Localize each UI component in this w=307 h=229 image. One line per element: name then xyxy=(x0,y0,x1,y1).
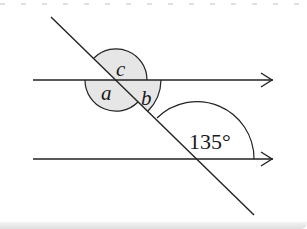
angle-a-label: a xyxy=(101,81,112,105)
angle-135-label: 135° xyxy=(189,129,231,154)
angle-c-label: c xyxy=(116,57,126,81)
transversal-line xyxy=(51,17,254,215)
parallel-lines-diagram: c a b 135° xyxy=(0,0,307,229)
angle-b-label: b xyxy=(141,86,152,110)
bottom-border-decoration xyxy=(0,222,307,229)
